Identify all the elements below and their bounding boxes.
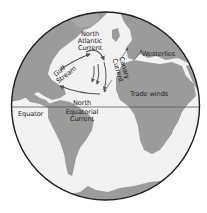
- label-equator: Equator: [18, 111, 43, 118]
- label-line: Current: [73, 45, 107, 52]
- label-trade-winds: Trade winds: [130, 91, 168, 98]
- label-north-equatorial-current: North Equatorial Current: [62, 100, 102, 123]
- label-westerlies: Westerlies: [142, 51, 175, 58]
- label-line: Current: [62, 116, 102, 123]
- label-line: North: [62, 100, 102, 107]
- label-north-atlantic-current: North Atlantic Current: [73, 31, 107, 52]
